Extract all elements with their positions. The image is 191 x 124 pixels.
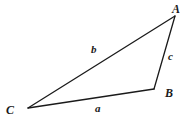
side-a-line — [28, 89, 154, 108]
vertex-label-b: B — [165, 87, 173, 99]
vertex-label-c: C — [6, 104, 14, 116]
side-label-c: c — [168, 51, 173, 62]
side-label-b: b — [91, 44, 97, 55]
triangle-diagram: A B C a b c — [0, 0, 191, 124]
side-label-a: a — [95, 103, 101, 114]
vertex-label-a: A — [172, 3, 180, 15]
side-b-line — [28, 16, 175, 108]
